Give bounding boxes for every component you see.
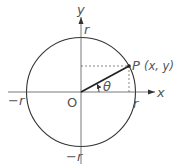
pos-x-radius-label: r bbox=[133, 96, 140, 111]
point-p-coords: (x, y) bbox=[144, 59, 174, 73]
y-axis-label: y bbox=[76, 2, 85, 17]
point-p-label: P bbox=[132, 58, 140, 73]
polar-coordinate-diagram: y x r r −r −r O P (x, y) θ bbox=[0, 0, 180, 165]
angle-arc-icon bbox=[97, 84, 99, 92]
diagram-canvas: y x r r −r −r O P (x, y) θ bbox=[0, 0, 180, 165]
neg-x-radius-label: −r bbox=[8, 93, 26, 108]
neg-y-radius-label: −r bbox=[66, 149, 84, 164]
point-p-dot bbox=[127, 64, 131, 68]
x-axis-label: x bbox=[156, 85, 165, 100]
angle-theta-label: θ bbox=[103, 79, 111, 94]
origin-label: O bbox=[67, 95, 77, 110]
pos-y-radius-label: r bbox=[84, 22, 91, 37]
